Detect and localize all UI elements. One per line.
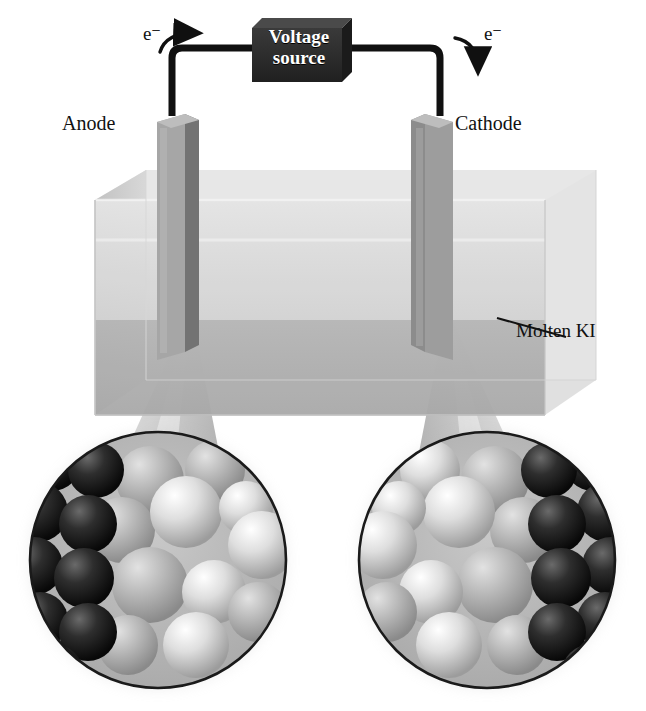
anode-label: Anode [62, 112, 115, 135]
diagram-svg [0, 0, 646, 711]
cathode-label: Cathode [455, 112, 522, 135]
cathode-electrode [411, 114, 453, 360]
electron-arrow-right [455, 38, 478, 70]
voltage-source-label-line1: Voltage [269, 26, 330, 47]
cathode-magnification-inset [349, 431, 640, 699]
anode-electrode [157, 114, 199, 360]
figure-canvas: Voltage source e⁻ e⁻ Anode Cathode Molte… [0, 0, 646, 711]
anode-magnification-inset [5, 431, 296, 699]
voltage-source-label-line2: source [273, 47, 325, 68]
electrolyte-label: Molten KI [516, 320, 596, 342]
electron-label-left: e⁻ [143, 22, 161, 45]
electron-label-right: e⁻ [484, 22, 502, 45]
voltage-source-label: Voltage source [253, 26, 345, 68]
